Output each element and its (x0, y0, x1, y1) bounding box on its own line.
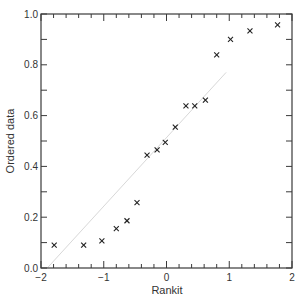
data-point-marker (81, 243, 86, 248)
y-axis-ticks: 0.00.20.40.60.81.0 (24, 9, 292, 274)
data-points (52, 22, 280, 247)
data-point-marker (114, 226, 119, 231)
data-point-marker (203, 98, 208, 103)
data-point-marker (124, 218, 129, 223)
data-point-marker (163, 140, 168, 145)
x-tick-label: 0 (164, 272, 170, 283)
y-tick-label: 0.4 (24, 161, 38, 172)
data-point-marker (99, 238, 104, 243)
x-axis-label: Rankit (151, 284, 182, 296)
data-point-marker (214, 52, 219, 57)
x-tick-label: −1 (98, 272, 110, 283)
y-tick-label: 1.0 (24, 9, 38, 20)
y-tick-label: 0.8 (24, 59, 38, 70)
data-point-marker (183, 103, 188, 108)
data-point-marker (145, 153, 150, 158)
reference-line (47, 72, 226, 268)
y-tick-label: 0.6 (24, 110, 38, 121)
x-tick-label: −2 (35, 272, 47, 283)
data-point-marker (52, 243, 57, 248)
normal-probability-plot: −2−1012 0.00.20.40.60.81.0 Rankit Ordere… (0, 0, 303, 300)
x-axis-ticks: −2−1012 (35, 14, 295, 283)
y-tick-label: 0.0 (24, 263, 38, 274)
data-point-marker (173, 125, 178, 130)
data-point-marker (192, 103, 197, 108)
data-point-marker (135, 200, 140, 205)
y-axis-label: Ordered data (4, 108, 16, 174)
y-tick-label: 0.2 (24, 212, 38, 223)
data-point-marker (228, 37, 233, 42)
x-tick-label: 2 (289, 272, 295, 283)
x-tick-label: 1 (226, 272, 232, 283)
data-point-marker (275, 22, 280, 27)
data-point-marker (247, 28, 252, 33)
